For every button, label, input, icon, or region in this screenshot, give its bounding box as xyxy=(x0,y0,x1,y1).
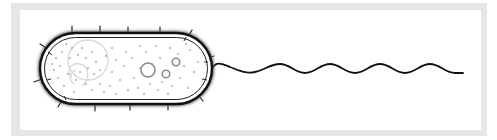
diagram-frame xyxy=(0,0,497,140)
cell-membrane xyxy=(45,38,208,100)
bacterium-diagram xyxy=(0,0,497,140)
